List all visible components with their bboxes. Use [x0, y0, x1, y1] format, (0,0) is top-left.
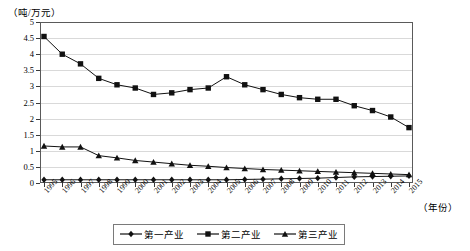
legend-item-3[interactable]: 第三产业 [274, 227, 338, 241]
triangle-marker-icon [274, 229, 296, 239]
chart-legend: 第一产业第二产业第三产业 [113, 224, 345, 245]
series-triangle [41, 143, 412, 177]
diamond-marker-icon [120, 229, 142, 239]
legend-label: 第二产业 [221, 227, 261, 241]
legend-label: 第一产业 [144, 227, 184, 241]
legend-item-2[interactable]: 第二产业 [197, 227, 261, 241]
legend-label: 第三产业 [298, 227, 338, 241]
chart-container: （吨/万元） （年份） 00.511.522.533.544.55 199519… [0, 0, 470, 251]
legend-item-1[interactable]: 第一产业 [120, 227, 184, 241]
series-square [41, 34, 411, 131]
series-layer [40, 22, 413, 183]
square-marker-icon [197, 229, 219, 239]
